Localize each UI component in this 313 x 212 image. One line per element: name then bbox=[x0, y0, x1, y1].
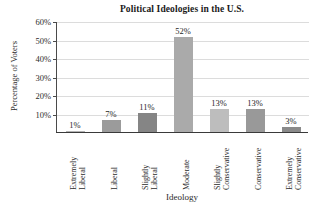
y-axis-tick-label: 60% bbox=[35, 17, 51, 27]
y-axis-tick-mark bbox=[53, 41, 57, 42]
y-axis-tick-mark bbox=[53, 22, 57, 23]
chart-title: Political Ideologies in the U.S. bbox=[55, 4, 309, 14]
gridline bbox=[57, 22, 309, 23]
plot-area: 10%20%30%40%50%60% 1%7%11%52%13%13%3% bbox=[56, 22, 308, 133]
bar-value-label: 1% bbox=[69, 120, 80, 130]
y-axis-tick-mark bbox=[53, 78, 57, 79]
bar-value-label: 7% bbox=[105, 109, 116, 119]
bar-value-label: 3% bbox=[285, 116, 296, 126]
x-axis-tick-label-line: Liberal bbox=[110, 167, 119, 190]
y-axis-tick-label: 30% bbox=[35, 73, 51, 83]
bar-value-label: 13% bbox=[211, 98, 227, 108]
bar-value-label: 52% bbox=[175, 26, 191, 36]
bar[interactable]: 13% bbox=[210, 109, 229, 133]
x-axis-tick-label-line: Extremely bbox=[69, 157, 78, 190]
bar-value-label: 11% bbox=[139, 102, 154, 112]
bar-chart-figure: Political Ideologies in the U.S. Percent… bbox=[0, 0, 313, 212]
x-axis-tick-label-line: Extremely bbox=[285, 148, 294, 190]
y-axis-tick-mark bbox=[53, 59, 57, 60]
bar[interactable]: 13% bbox=[246, 109, 265, 133]
x-axis-tick-label-line: Conservative bbox=[222, 148, 231, 190]
y-axis-tick-label: 20% bbox=[35, 91, 51, 101]
x-axis-tick-label-line: Conservative bbox=[294, 148, 303, 190]
y-axis-tick-label: 50% bbox=[35, 36, 51, 46]
x-axis-tick-label-line: Moderate bbox=[182, 159, 191, 190]
y-axis-tick-mark bbox=[53, 115, 57, 116]
bar[interactable]: 11% bbox=[138, 113, 157, 133]
x-axis-tick-label-line: Liberal bbox=[78, 157, 87, 190]
x-axis-tick-label-line: Slightly bbox=[141, 165, 150, 190]
x-axis-line bbox=[56, 132, 308, 133]
y-axis-title: Percentage of Voters bbox=[9, 16, 19, 136]
x-axis-tick-label-line: Conservative bbox=[254, 148, 263, 190]
x-axis-title: Ideology bbox=[56, 192, 308, 202]
y-axis-tick-label: 10% bbox=[35, 110, 51, 120]
x-axis-tick-label-line: Slightly bbox=[213, 148, 222, 190]
x-axis-tick-label-line: Liberal bbox=[150, 165, 159, 190]
bar[interactable]: 52% bbox=[174, 37, 193, 133]
bar-value-label: 13% bbox=[247, 98, 263, 108]
y-axis-tick-mark bbox=[53, 96, 57, 97]
y-axis-tick-label: 40% bbox=[35, 54, 51, 64]
